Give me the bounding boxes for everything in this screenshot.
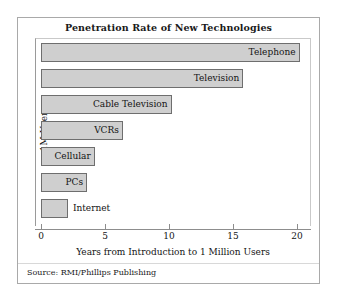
bar-label: PCs bbox=[66, 173, 84, 192]
bar-row: VCRs bbox=[41, 121, 123, 140]
source-note: Source: RMI/Phillips Publishing bbox=[27, 268, 156, 277]
bar-label: Internet bbox=[73, 199, 110, 218]
page-title: Penetration Rate of New Technologies bbox=[17, 22, 320, 33]
x-axis-tick-label: 0 bbox=[26, 231, 56, 241]
x-axis-tick bbox=[169, 224, 170, 229]
bar-row: Cellular bbox=[41, 147, 95, 166]
bar-label: Cable Television bbox=[93, 95, 168, 114]
x-axis-tick-label: 10 bbox=[154, 231, 184, 241]
plot-area: TelephoneTelevisionCable TelevisionVCRsC… bbox=[41, 40, 297, 226]
x-axis-line bbox=[35, 229, 311, 230]
x-axis-tick-label: 15 bbox=[218, 231, 248, 241]
x-axis-tick bbox=[41, 224, 42, 229]
bar-row: Internet bbox=[41, 199, 68, 218]
x-axis-tick-label: 5 bbox=[90, 231, 120, 241]
bar-row: Telephone bbox=[41, 43, 300, 62]
bar-row: Cable Television bbox=[41, 95, 172, 114]
x-axis-tick bbox=[105, 224, 106, 229]
x-axis-tick-label: 20 bbox=[282, 231, 312, 241]
source-divider bbox=[18, 263, 319, 264]
bar-row: PCs bbox=[41, 173, 87, 192]
x-axis-title: Years from Introduction to 1 Million Use… bbox=[35, 247, 311, 257]
bar-label: Cellular bbox=[54, 147, 90, 166]
chart-screenshot: Penetration Rate of New Technologies 1M … bbox=[0, 0, 339, 304]
bar-label: Television bbox=[194, 69, 240, 88]
x-axis-tick bbox=[297, 224, 298, 229]
x-axis-tick bbox=[233, 224, 234, 229]
bar-label: VCRs bbox=[94, 121, 119, 140]
bar bbox=[41, 199, 68, 218]
bar-row: Television bbox=[41, 69, 243, 88]
bar-label: Telephone bbox=[249, 43, 296, 62]
